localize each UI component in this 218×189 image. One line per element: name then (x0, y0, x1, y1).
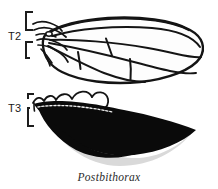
segment-label-t3: T3 (8, 102, 21, 114)
figure-root: T2 T3 Postbithorax (0, 0, 218, 189)
figure-caption: Postbithorax (76, 171, 141, 183)
t2-hinge-nodule (46, 32, 52, 36)
postbithorax-figure: T2 T3 Postbithorax (0, 0, 218, 189)
t2-posterior-crossvein (130, 59, 131, 80)
segment-label-t2: T2 (8, 30, 21, 42)
